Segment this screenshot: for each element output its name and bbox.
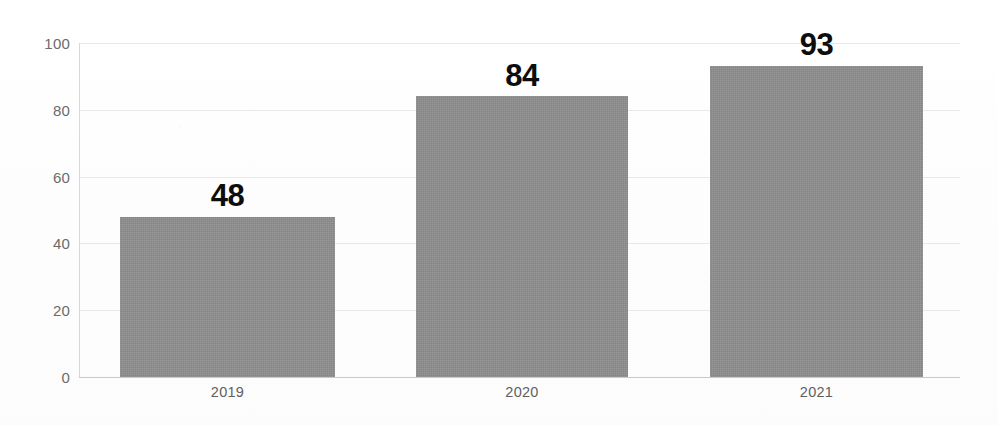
value-label-2019: 48 <box>211 178 244 214</box>
value-label-2021: 93 <box>800 27 833 63</box>
y-tick-label-100: 100 <box>8 35 70 52</box>
x-axis-label-2021: 2021 <box>800 384 833 400</box>
x-axis-label-2020: 2020 <box>505 384 538 400</box>
bar-2020 <box>416 96 628 377</box>
y-tick-label-0: 0 <box>8 369 70 386</box>
y-tick-label-60: 60 <box>8 168 70 185</box>
x-axis-label-2019: 2019 <box>211 384 244 400</box>
y-tick-label-20: 20 <box>8 302 70 319</box>
y-axis-tick-labels: 100 80 60 40 20 0 <box>0 0 70 425</box>
bar-2021 <box>710 66 923 377</box>
bar-2019 <box>120 217 335 377</box>
y-tick-label-40: 40 <box>8 235 70 252</box>
bar-chart: 100 80 60 40 20 0 48 84 93 2019 2020 202… <box>0 0 998 425</box>
value-label-2020: 84 <box>505 58 538 94</box>
y-tick-label-80: 80 <box>8 101 70 118</box>
x-axis-line <box>79 377 960 378</box>
y-axis-line <box>79 43 80 377</box>
